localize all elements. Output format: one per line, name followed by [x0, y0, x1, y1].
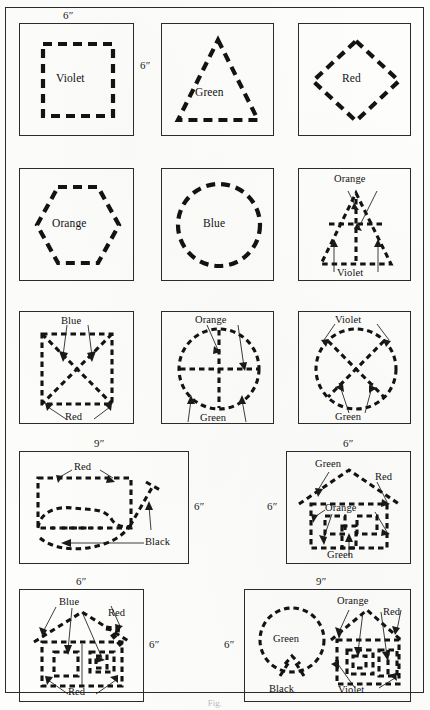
figure-11-label-green-bottom: Green	[327, 549, 353, 560]
figure-12-dim-right: 6″	[149, 638, 159, 650]
triangle-with-cross-figure	[299, 169, 412, 282]
figure-13-dim-left: 6″	[224, 638, 234, 650]
circle-with-x-figure	[299, 312, 412, 425]
figure-13-label-black: Black	[269, 683, 294, 694]
figure-cell-3: Red	[298, 23, 411, 136]
figure-cell-1: Violet	[19, 23, 134, 136]
figure-5-color-label: Blue	[203, 217, 225, 229]
figure-cell-6: Orange Violet	[298, 168, 411, 281]
figure-cell-10: Red Black	[19, 451, 189, 564]
figure-11-dim-left: 6″	[267, 500, 277, 512]
figure-10-label-black: Black	[145, 536, 170, 547]
figure-cell-2: Green	[161, 23, 274, 136]
figure-9-label-violet: Violet	[335, 314, 361, 325]
figure-10-dim-right: 6″	[194, 500, 204, 512]
figure-13-label-orange: Orange	[337, 595, 369, 606]
figure-1-dim-right: 6″	[140, 59, 150, 71]
figure-cell-7: Blue Red	[19, 311, 134, 424]
figure-cell-12: Blue Red Red	[19, 589, 144, 702]
figure-cell-8: Orange Green	[161, 311, 274, 424]
figure-cell-9: Violet Green	[298, 311, 411, 424]
figure-3-color-label: Red	[342, 72, 361, 84]
figure-6-label-orange: Orange	[334, 173, 366, 184]
figure-11-label-orange: Orange	[325, 502, 357, 513]
rectangle-with-cat-figure	[20, 452, 190, 565]
figure-13-label-green: Green	[273, 633, 299, 644]
figure-8-label-orange: Orange	[195, 314, 227, 325]
figure-cell-13: Orange Red Green Black Violet	[244, 589, 411, 702]
plate-caption: Fig.	[0, 698, 430, 708]
figure-13-label-violet: Violet	[338, 684, 364, 695]
figure-8-label-green: Green	[200, 412, 226, 423]
figure-7-label-red: Red	[65, 411, 82, 422]
figure-12-label-red-top: Red	[108, 607, 125, 618]
figure-1-color-label: Violet	[56, 72, 85, 84]
figure-12-label-red-bottom: Red	[68, 686, 85, 697]
figure-cell-4: Orange	[19, 168, 134, 281]
figure-11-dim-top: 6″	[343, 437, 353, 449]
figure-11-label-green-top: Green	[315, 458, 341, 469]
figure-10-dim-top: 9″	[94, 437, 104, 449]
figure-12-label-blue: Blue	[59, 596, 79, 607]
figure-4-color-label: Orange	[52, 217, 86, 229]
figure-2-color-label: Green	[195, 86, 224, 98]
figure-cell-5: Blue	[161, 168, 274, 281]
figure-9-label-green: Green	[335, 411, 361, 422]
figure-10-label-red: Red	[74, 461, 91, 472]
figure-13-label-red: Red	[383, 606, 400, 617]
figure-cell-11: Green Red Orange Green	[286, 451, 411, 564]
figure-1-dim-top: 6″	[63, 9, 73, 21]
plate-border: Violet 6″ 6″ Green Red Orange Blue	[5, 7, 424, 693]
figure-13-dim-top: 9″	[316, 575, 326, 587]
figure-6-label-violet: Violet	[337, 267, 363, 278]
figure-7-label-blue: Blue	[61, 315, 81, 326]
figure-12-dim-top: 6″	[76, 575, 86, 587]
square-with-x-figure	[20, 312, 135, 425]
triangle-figure	[162, 24, 275, 137]
figure-11-label-red: Red	[375, 471, 392, 482]
circle-with-cross-figure	[162, 312, 275, 425]
